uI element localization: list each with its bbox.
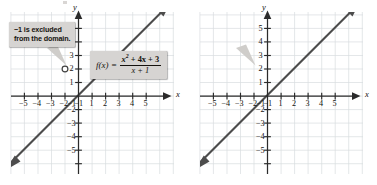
x-tick-right-3: 3 xyxy=(306,99,310,108)
x-tick-right--5: −5 xyxy=(208,99,217,108)
x-tick-left--4: −4 xyxy=(33,99,42,108)
x-tick-left-5: 5 xyxy=(144,99,148,108)
y-tick-right-1: 1 xyxy=(259,78,263,87)
x-axis-label-right: x xyxy=(365,89,369,99)
callout-tail-right xyxy=(236,45,256,66)
callout-excluded-line1: −1 is excluded xyxy=(14,25,70,34)
y-tick-right-4: 4 xyxy=(259,37,263,46)
formula-box-f: f(x) = x2 + 4x + 3 x + 1 xyxy=(90,51,167,79)
y-tick-left-1: 1 xyxy=(70,78,74,87)
y-tick-left--1: −1 xyxy=(75,99,84,108)
formula-f-equals: = xyxy=(112,60,117,70)
y-tick-right--2: −2 xyxy=(256,105,265,114)
y-axis-label-left: y xyxy=(73,2,77,12)
x-tick-left-3: 3 xyxy=(117,99,121,108)
callout-excluded-line2: from the domain. xyxy=(14,34,70,43)
num-rest: + 4x + 3 xyxy=(129,55,159,64)
y-tick-right--3: −3 xyxy=(256,119,265,128)
y-tick-right-3: 3 xyxy=(259,51,263,60)
y-tick-left-2: 2 xyxy=(70,64,74,73)
right-coordinate-plane xyxy=(189,0,377,185)
y-tick-left--4: −4 xyxy=(67,132,76,141)
y-tick-left--2: −2 xyxy=(67,105,76,114)
x-tick-right-4: 4 xyxy=(319,99,323,108)
math-figure: y x −5 −4 −3 −2 −1 1 2 3 4 5 5 4 3 2 1 −… xyxy=(0,0,377,185)
right-graph-panel: y x −5 −4 −3 −2 −1 1 2 3 4 5 5 4 3 2 1 −… xyxy=(189,0,377,185)
x-tick-left-2: 2 xyxy=(103,99,107,108)
x-tick-left-1: 1 xyxy=(90,99,94,108)
hole-open-circle xyxy=(62,66,68,72)
y-tick-left-3: 3 xyxy=(70,51,74,60)
formula-f-numerator: x2 + 4x + 3 xyxy=(120,54,162,65)
function-line-right xyxy=(195,5,359,171)
y-tick-right-2: 2 xyxy=(259,64,263,73)
y-tick-right--1: −1 xyxy=(264,99,273,108)
x-tick-left--3: −3 xyxy=(46,99,55,108)
x-axis-label-left: x xyxy=(176,89,180,99)
den-text: x + 1 xyxy=(131,66,149,75)
axes-right xyxy=(200,11,361,175)
x-tick-right--3: −3 xyxy=(235,99,244,108)
x-tick-right-2: 2 xyxy=(292,99,296,108)
y-tick-left--3: −3 xyxy=(67,119,76,128)
x-tick-right--4: −4 xyxy=(222,99,231,108)
y-tick-right--5: −5 xyxy=(256,146,265,155)
callout-excluded: −1 is excluded from the domain. xyxy=(9,22,75,48)
x-tick-right-1: 1 xyxy=(279,99,283,108)
y-tick-right--4: −4 xyxy=(256,132,265,141)
callout-tail-left xyxy=(47,45,67,66)
y-axis-label-right: y xyxy=(262,2,266,12)
y-tick-right-5: 5 xyxy=(259,24,263,33)
x-tick-left--5: −5 xyxy=(19,99,28,108)
formula-f-denominator: x + 1 xyxy=(120,66,162,76)
x-tick-left-4: 4 xyxy=(130,99,134,108)
left-graph-panel: y x −5 −4 −3 −2 −1 1 2 3 4 5 5 4 3 2 1 −… xyxy=(0,0,188,185)
y-tick-left--5: −5 xyxy=(67,146,76,155)
x-tick-right-5: 5 xyxy=(333,99,337,108)
formula-f-name: f(x) xyxy=(96,60,109,70)
formula-f-fraction: x2 + 4x + 3 x + 1 xyxy=(120,54,162,76)
